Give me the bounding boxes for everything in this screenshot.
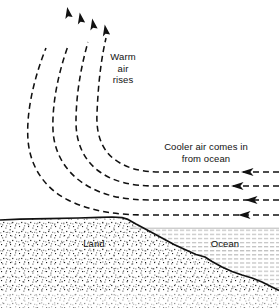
inflow-arrowhead-1: [241, 168, 254, 176]
updraft-arrowhead-3: [89, 18, 98, 30]
streamline-3: [76, 42, 279, 186]
streamline-4: [97, 38, 279, 172]
diagram-canvas: [0, 0, 279, 308]
updraft-arrowhead-2: [76, 12, 85, 24]
updraft-arrowhead-1: [64, 6, 73, 18]
sea-breeze-diagram: Warm air rises Cooler air comes in from …: [0, 0, 279, 308]
streamline-2: [53, 46, 279, 200]
updraft-arrowheads: [64, 6, 111, 36]
updraft-arrowhead-4: [101, 24, 110, 36]
streamline-1: [28, 48, 279, 215]
inflow-arrowheads: [231, 168, 258, 219]
inflow-arrowhead-2: [231, 182, 244, 190]
